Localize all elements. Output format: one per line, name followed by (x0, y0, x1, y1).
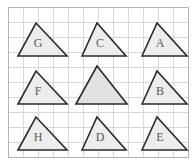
triangle-g-label: G (34, 36, 43, 50)
triangle-e-label: E (156, 130, 163, 144)
triangle-d-label: D (96, 130, 105, 144)
triangles-layer: GCAFBHDE (18, 23, 187, 150)
triangle-grid-figure: GCAFBHDE (0, 0, 196, 164)
triangle-c-label: C (96, 36, 104, 50)
triangle-f-label: F (35, 84, 42, 98)
triangle-h-label: H (34, 130, 43, 144)
figure-canvas: GCAFBHDE (0, 0, 196, 164)
triangle-a-label: A (156, 36, 165, 50)
triangle-b-label: B (156, 84, 164, 98)
